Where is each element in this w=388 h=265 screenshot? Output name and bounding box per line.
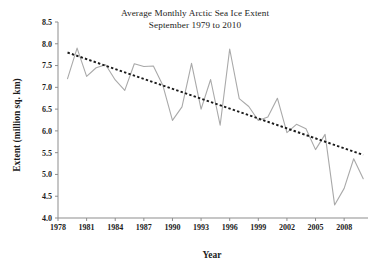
x-tick-label: 1981 — [79, 223, 95, 232]
x-tick-label: 1987 — [136, 223, 152, 232]
x-tick-label: 2002 — [279, 223, 295, 232]
sea-ice-extent-line-chart: Average Monthly Arctic Sea Ice Extent Se… — [0, 0, 388, 265]
chart-container: Average Monthly Arctic Sea Ice Extent Se… — [0, 0, 388, 265]
y-axis: 4.04.55.05.56.06.57.07.58.08.5 — [42, 18, 58, 223]
y-tick-label: 4.0 — [42, 214, 52, 223]
x-tick-label: 1978 — [50, 223, 66, 232]
x-axis-title: Year — [203, 250, 223, 260]
y-tick-label: 8.0 — [42, 40, 52, 49]
x-tick-label: 1996 — [222, 223, 238, 232]
chart-subtitle: September 1979 to 2010 — [149, 20, 242, 30]
x-tick-label: 1999 — [250, 223, 266, 232]
chart-title-group: Average Monthly Arctic Sea Ice Extent Se… — [121, 8, 270, 30]
axis-frame-lines — [58, 22, 368, 218]
y-tick-label: 4.5 — [42, 192, 52, 201]
y-tick-label: 5.0 — [42, 170, 52, 179]
chart-title: Average Monthly Arctic Sea Ice Extent — [121, 8, 270, 18]
x-tick-label: 2008 — [336, 223, 352, 232]
x-tick-label: 2005 — [308, 223, 324, 232]
y-tick-label: 5.5 — [42, 149, 52, 158]
x-axis: 1978198119841987199019931996199920022005… — [50, 218, 352, 232]
y-tick-label: 7.5 — [42, 61, 52, 70]
y-axis-title: Extent (million sq. km) — [12, 78, 23, 171]
y-tick-label: 6.0 — [42, 127, 52, 136]
x-tick-label: 1993 — [193, 223, 209, 232]
trend-line — [68, 52, 364, 154]
y-tick-label: 6.5 — [42, 105, 52, 114]
y-tick-label: 8.5 — [42, 18, 52, 27]
x-tick-label: 1984 — [107, 223, 123, 232]
data-series-line — [68, 48, 364, 205]
y-tick-label: 7.0 — [42, 83, 52, 92]
x-tick-label: 1990 — [164, 223, 180, 232]
